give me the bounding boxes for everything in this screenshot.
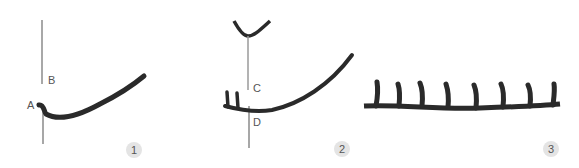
step-badge-3: 3 xyxy=(543,141,559,157)
step-badge-1: 1 xyxy=(126,142,142,158)
yarn-chain xyxy=(225,55,352,111)
step-2-panel: C D 2 xyxy=(200,0,370,168)
label-d: D xyxy=(253,117,261,128)
step-badge-2: 2 xyxy=(334,141,350,157)
yarn-posts xyxy=(227,92,238,108)
step-3-panel: 3 xyxy=(360,0,579,168)
label-a: A xyxy=(27,100,34,111)
yarn-loop-top xyxy=(234,21,270,36)
label-c: C xyxy=(253,83,261,94)
label-b: B xyxy=(48,75,55,86)
step-1-panel: B A 1 xyxy=(0,0,200,168)
step-1-illustration xyxy=(0,0,200,168)
